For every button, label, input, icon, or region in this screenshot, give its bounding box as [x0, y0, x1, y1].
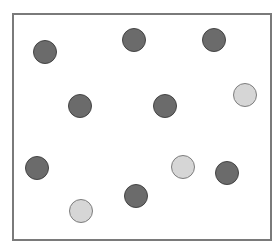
dark-circle-5 [153, 94, 177, 118]
dark-circle-10 [124, 184, 148, 208]
dark-circle-3 [202, 28, 226, 52]
dark-circle-2 [122, 28, 146, 52]
light-circle-6 [233, 83, 257, 107]
dark-circle-4 [68, 94, 92, 118]
dark-circle-9 [215, 161, 239, 185]
light-circle-8 [171, 155, 195, 179]
dark-circle-1 [33, 40, 57, 64]
dark-circle-7 [25, 156, 49, 180]
light-circle-11 [69, 199, 93, 223]
